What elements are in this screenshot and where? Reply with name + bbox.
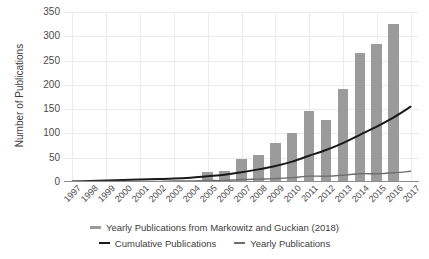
legend-swatch-yearly-icon bbox=[234, 242, 245, 244]
line-path bbox=[72, 107, 410, 182]
legend-item-bar: Yearly Publications from Markowitz and G… bbox=[90, 222, 339, 233]
legend-swatch-bar-icon bbox=[90, 226, 101, 229]
legend-row-1: Yearly Publications from Markowitz and G… bbox=[0, 219, 429, 235]
legend-row-2: Cumulative Publications Yearly Publicati… bbox=[0, 235, 429, 251]
y-tick-label: 350 bbox=[2, 6, 60, 17]
y-tick-label: 300 bbox=[2, 30, 60, 41]
publications-chart: Number of Publications 05010015020025030… bbox=[0, 0, 429, 259]
x-axis-baseline bbox=[64, 181, 419, 182]
y-tick-label: 200 bbox=[2, 79, 60, 90]
line-series bbox=[64, 12, 419, 182]
y-tick-label: 250 bbox=[2, 55, 60, 66]
y-tick-label: 50 bbox=[2, 152, 60, 163]
legend-item-yearly: Yearly Publications bbox=[234, 238, 330, 249]
chart-legend: Yearly Publications from Markowitz and G… bbox=[0, 219, 429, 251]
plot-area bbox=[64, 12, 419, 182]
legend-swatch-cumulative-icon bbox=[99, 242, 110, 244]
legend-label-bar: Yearly Publications from Markowitz and G… bbox=[106, 222, 339, 233]
y-axis-tick-labels: 050100150200250300350 bbox=[0, 12, 60, 182]
y-tick-label: 150 bbox=[2, 103, 60, 114]
legend-label-cumulative: Cumulative Publications bbox=[115, 238, 216, 249]
x-axis-tick-labels: 1997199819992000200120022003200420052006… bbox=[64, 183, 419, 215]
legend-item-cumulative: Cumulative Publications bbox=[99, 238, 216, 249]
y-tick-label: 100 bbox=[2, 127, 60, 138]
legend-label-yearly: Yearly Publications bbox=[250, 238, 330, 249]
y-tick-label: 0 bbox=[2, 176, 60, 187]
